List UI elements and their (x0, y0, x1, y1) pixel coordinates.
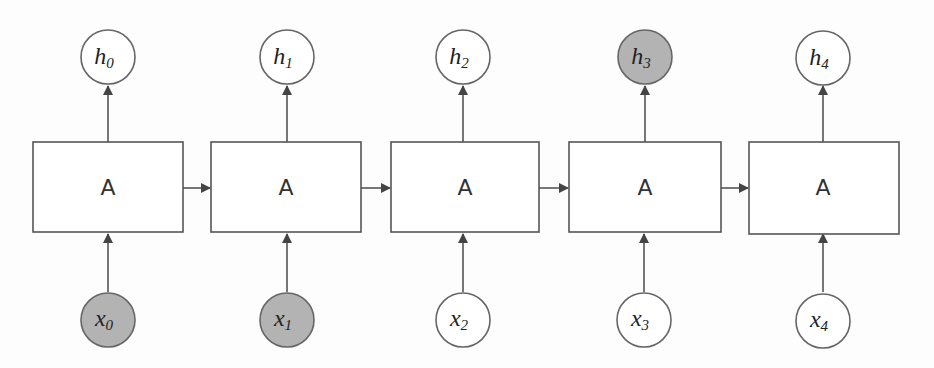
hidden-state-node-3: h3 (618, 30, 672, 84)
hidden-state-sub-1: 1 (285, 55, 293, 71)
hidden-state-base-3: h (631, 43, 643, 69)
hidden-state-node-0: h0 (81, 30, 135, 84)
rnn-cell-2: A h2 x2 (391, 30, 539, 347)
input-sub-0: 0 (106, 317, 114, 333)
hidden-state-base-2: h (449, 43, 461, 69)
input-node-2: x2 (436, 293, 490, 347)
cell-label-2: A (457, 175, 472, 200)
input-node-3: x3 (617, 293, 671, 347)
input-node-4: x4 (796, 294, 850, 348)
input-base-3: x (630, 305, 642, 331)
cell-label-3: A (637, 175, 652, 200)
hidden-state-sub-3: 3 (642, 55, 651, 71)
rnn-cell-3: A h3 x3 (569, 30, 721, 347)
rnn-cell-0: A h0 x0 (33, 30, 183, 347)
input-node-0: x0 (81, 293, 135, 347)
hidden-state-node-1: h1 (260, 30, 314, 84)
hidden-state-sub-0: 0 (106, 55, 114, 71)
cell-label-1: A (278, 175, 293, 200)
cell-label-0: A (100, 175, 115, 200)
rnn-cell-4: A h4 x4 (749, 31, 899, 348)
rnn-cell-1: A h1 x1 (211, 30, 361, 347)
input-sub-2: 2 (461, 317, 469, 333)
cell-label-4: A (815, 175, 830, 200)
hidden-state-node-2: h2 (436, 30, 490, 84)
hidden-state-base-4: h (809, 44, 821, 70)
input-base-4: x (809, 306, 821, 332)
input-base-2: x (449, 305, 461, 331)
input-base-1: x (273, 305, 285, 331)
hidden-state-sub-4: 4 (821, 56, 829, 72)
input-sub-1: 1 (285, 317, 293, 333)
input-sub-3: 3 (641, 317, 650, 333)
input-node-1: x1 (260, 293, 314, 347)
hidden-state-base-0: h (94, 43, 106, 69)
hidden-state-sub-2: 2 (461, 55, 469, 71)
input-sub-4: 4 (821, 318, 829, 334)
hidden-state-base-1: h (273, 43, 285, 69)
rnn-diagram: A h0 x0 A h1 x1 A h2 (0, 0, 934, 368)
input-base-0: x (94, 305, 106, 331)
hidden-state-node-4: h4 (796, 31, 850, 85)
